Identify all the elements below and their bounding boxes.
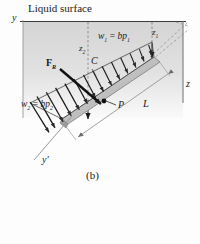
liquid-surface-label: Liquid surface — [28, 3, 92, 14]
w1-load-label: w1 = bp1 — [98, 32, 130, 44]
centroid-label: C — [91, 56, 98, 66]
figure-root: Liquid surface y z y' z1 z2 w1 = bp1 w2 … — [0, 0, 200, 244]
y-axis-label: y — [12, 13, 16, 23]
z2-label: z2 — [79, 44, 85, 55]
y-prime-axis-label: y' — [42, 155, 49, 165]
y-prime-axis-line — [34, 116, 72, 160]
w2-load-label: w2 = bp2 — [21, 100, 53, 112]
plate-length-label: L — [143, 99, 149, 110]
figure-caption: (b) — [86, 170, 99, 181]
center-of-pressure-label: P — [118, 100, 124, 110]
L-extension-lower — [64, 124, 76, 140]
z1-label: z1 — [152, 28, 158, 39]
center-of-pressure-dot — [102, 99, 107, 104]
z-axis-label: z — [186, 79, 190, 89]
resultant-force-label: FR — [46, 58, 56, 70]
